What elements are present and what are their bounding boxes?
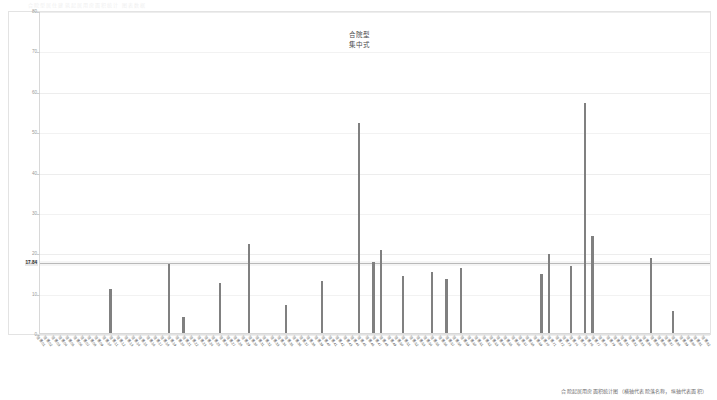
bar[interactable] bbox=[540, 274, 542, 333]
bar[interactable] bbox=[650, 258, 652, 333]
bar[interactable] bbox=[460, 268, 462, 333]
y-axis-tick-mark bbox=[37, 12, 40, 13]
chart-container: 合院型 集中式 8070605040302010017.84 bbox=[8, 11, 711, 335]
y-axis-tick-label: 80 bbox=[32, 10, 37, 15]
gridline bbox=[40, 174, 710, 175]
gridline bbox=[40, 214, 710, 215]
bar[interactable] bbox=[372, 262, 374, 333]
gridline bbox=[40, 93, 710, 94]
y-axis-tick-label: 70 bbox=[32, 50, 37, 55]
bar[interactable] bbox=[570, 266, 572, 333]
y-axis-tick-mark bbox=[37, 254, 40, 255]
y-axis-tick-mark bbox=[37, 133, 40, 134]
x-axis-labels: 院落01院落02院落03院落04院落05院落06院落07院落08院落09院落10… bbox=[38, 336, 717, 366]
y-axis-tick-mark bbox=[37, 174, 40, 175]
header-text: 合院型居住建筑起居用房面积统计 图表数据 bbox=[28, 1, 146, 8]
reference-line-label: 17.84 bbox=[25, 260, 39, 266]
gridline bbox=[40, 295, 710, 296]
bar[interactable] bbox=[548, 254, 550, 333]
y-axis-tick-label: 30 bbox=[32, 212, 37, 217]
bar[interactable] bbox=[182, 317, 184, 333]
figure-caption: 合院起居用房面积统计图（横轴代表院落名称，纵轴代表面积） bbox=[561, 387, 707, 394]
y-axis-tick-label: 20 bbox=[32, 252, 37, 257]
y-axis-tick-label: 10 bbox=[32, 292, 37, 297]
bar[interactable] bbox=[168, 264, 170, 333]
y-axis-tick-label: 40 bbox=[32, 171, 37, 176]
bar[interactable] bbox=[321, 281, 323, 333]
gridline bbox=[40, 133, 710, 134]
bar[interactable] bbox=[431, 272, 433, 333]
bar[interactable] bbox=[445, 279, 447, 334]
bar[interactable] bbox=[672, 311, 674, 333]
reference-line bbox=[40, 263, 710, 264]
y-axis-tick-mark bbox=[37, 52, 40, 53]
header-strip: 合院型居住建筑起居用房面积统计 图表数据 bbox=[0, 0, 717, 9]
y-axis-tick-mark bbox=[37, 93, 40, 94]
gridline bbox=[40, 254, 710, 255]
bar[interactable] bbox=[402, 276, 404, 333]
bar[interactable] bbox=[285, 305, 287, 333]
bar[interactable] bbox=[219, 283, 221, 333]
bar[interactable] bbox=[591, 236, 593, 333]
y-axis-tick-label: 60 bbox=[32, 90, 37, 95]
gridline bbox=[40, 12, 710, 13]
bar[interactable] bbox=[380, 250, 382, 333]
bar[interactable] bbox=[109, 289, 111, 333]
y-axis-tick-mark bbox=[37, 295, 40, 296]
plot-area: 8070605040302010017.84 bbox=[39, 12, 710, 334]
bar[interactable] bbox=[248, 244, 250, 333]
y-axis-tick-mark bbox=[37, 214, 40, 215]
bar[interactable] bbox=[358, 123, 360, 333]
y-axis-tick-label: 50 bbox=[32, 131, 37, 136]
bar[interactable] bbox=[584, 103, 586, 333]
gridline bbox=[40, 52, 710, 53]
